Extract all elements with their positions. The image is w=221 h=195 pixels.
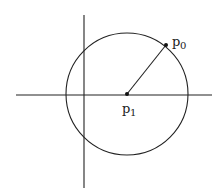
radius-segment [127, 45, 166, 94]
diagram-canvas: p 0 p 1 [0, 0, 221, 195]
label-p0-subscript: 0 [180, 40, 186, 51]
label-p1-subscript: 1 [130, 107, 136, 118]
point-p1 [125, 92, 129, 96]
point-p0 [164, 43, 168, 47]
